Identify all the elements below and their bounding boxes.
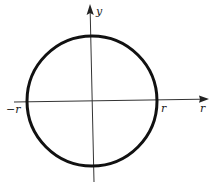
y-axis-label: y bbox=[96, 6, 102, 17]
circle-diagram: y −r r r bbox=[0, 0, 215, 190]
diagram-canvas bbox=[0, 0, 215, 190]
x-axis-line bbox=[14, 99, 203, 102]
neg-r-label: −r bbox=[6, 104, 20, 115]
pos-r-label: r bbox=[161, 103, 166, 114]
x-axis-label: r bbox=[200, 103, 205, 114]
